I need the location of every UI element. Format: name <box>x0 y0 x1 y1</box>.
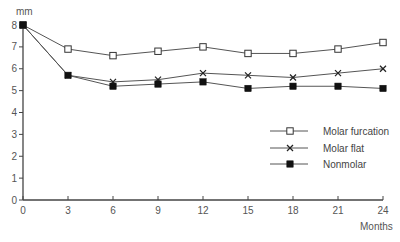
x-axis-title: Months <box>360 221 393 232</box>
data-point-marker <box>200 79 206 85</box>
y-tick-label: 7 <box>11 41 17 52</box>
x-tick-label: 9 <box>155 205 161 216</box>
series-line <box>23 25 383 56</box>
data-point-marker <box>245 50 251 56</box>
data-point-marker <box>245 85 251 91</box>
legend-item: Molar furcation <box>270 126 389 137</box>
data-point-marker <box>290 83 296 89</box>
y-tick-label: 4 <box>11 107 17 118</box>
legend-label: Molar flat <box>323 143 364 154</box>
data-point-marker <box>335 83 341 89</box>
data-point-marker <box>65 46 71 52</box>
series-nonmolar <box>20 22 386 92</box>
x-tick-label: 6 <box>110 205 116 216</box>
x-tick-label: 15 <box>242 205 254 216</box>
x-tick-label: 18 <box>287 205 299 216</box>
legend-item: Nonmolar <box>270 159 367 170</box>
y-tick-label: 3 <box>11 129 17 140</box>
x-tick-label: 0 <box>20 205 26 216</box>
series-group <box>20 22 386 92</box>
x-tick-label: 3 <box>65 205 71 216</box>
legend-label: Nonmolar <box>323 159 367 170</box>
data-point-marker <box>110 52 116 58</box>
y-tick-label: 2 <box>11 151 17 162</box>
data-point-marker <box>380 39 386 45</box>
y-axis-title: mm <box>16 6 33 17</box>
x-tick-label: 21 <box>332 205 344 216</box>
y-tick-label: 8 <box>11 20 17 31</box>
y-tick-label: 5 <box>11 85 17 96</box>
data-point-marker <box>200 44 206 50</box>
data-point-marker <box>20 22 26 28</box>
y-tick-label: 1 <box>11 173 17 184</box>
legend-label: Molar furcation <box>323 126 389 137</box>
data-point-marker <box>110 83 116 89</box>
y-tick-label: 0 <box>11 195 17 206</box>
data-point-marker <box>380 85 386 91</box>
data-point-marker <box>65 72 71 78</box>
legend-marker-icon <box>287 161 293 167</box>
data-point-marker <box>155 48 161 54</box>
x-tick-label: 12 <box>197 205 209 216</box>
series-molar-furcation <box>20 22 386 59</box>
series-molar-flat <box>20 22 386 85</box>
data-point-marker <box>335 46 341 52</box>
x-tick-label: 24 <box>377 205 389 216</box>
y-tick-label: 6 <box>11 63 17 74</box>
line-chart: 01234567803691215182124 Molar furcationM… <box>0 0 400 242</box>
data-point-marker <box>155 81 161 87</box>
legend: Molar furcationMolar flatNonmolar <box>270 126 389 170</box>
legend-item: Molar flat <box>270 143 364 154</box>
legend-marker-icon <box>287 128 293 134</box>
data-point-marker <box>290 50 296 56</box>
